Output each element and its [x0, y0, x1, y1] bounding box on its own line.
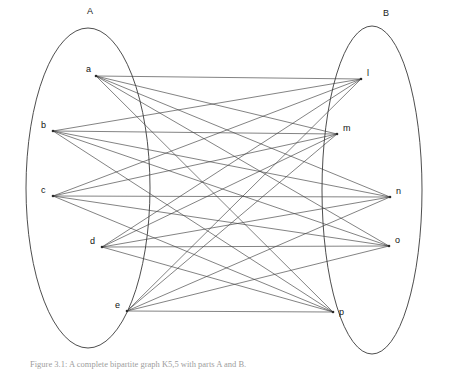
vertex-d	[101, 246, 104, 249]
edge-d-p	[102, 247, 333, 312]
node-label-p: p	[339, 307, 344, 317]
vertex-c	[52, 195, 55, 198]
vertex-m	[336, 133, 339, 136]
set-ellipse-b	[322, 26, 422, 354]
figure-caption: Figure 3.1: A complete bipartite graph K…	[0, 360, 460, 371]
vertex-l	[360, 78, 363, 81]
bipartite-graph-figure: abcdelmnop AB Figure 3.1: A complete bip…	[0, 0, 460, 371]
node-label-d: d	[90, 236, 95, 246]
vertex-n	[389, 196, 392, 199]
node-label-m: m	[343, 123, 351, 133]
set-label-layer: AB	[87, 6, 389, 18]
node-label-layer: abcdelmnop	[41, 64, 401, 317]
edge-a-p	[96, 76, 333, 312]
edge-a-l	[96, 76, 361, 79]
edge-e-o	[127, 246, 389, 311]
edge-b-l	[53, 79, 361, 131]
set-ellipse-layer	[26, 26, 422, 354]
node-label-e: e	[115, 300, 120, 310]
edge-e-n	[127, 197, 390, 311]
node-label-c: c	[41, 185, 46, 195]
graph-canvas: abcdelmnop AB	[0, 0, 460, 371]
edge-layer	[53, 76, 390, 312]
edge-c-o	[53, 196, 389, 246]
set-label-b: B	[383, 8, 389, 18]
figure-caption-text: Figure 3.1: A complete bipartite graph K…	[30, 360, 450, 370]
vertex-o	[388, 245, 391, 248]
node-label-a: a	[86, 64, 91, 74]
edge-e-l	[127, 79, 361, 311]
edge-c-l	[53, 79, 361, 196]
edge-d-o	[102, 246, 389, 247]
node-label-l: l	[367, 68, 369, 78]
vertex-b	[52, 130, 55, 133]
node-label-b: b	[41, 120, 46, 130]
edge-d-m	[102, 134, 337, 247]
vertex-layer	[52, 75, 392, 314]
node-label-n: n	[396, 186, 401, 196]
edge-e-p	[127, 311, 333, 312]
vertex-e	[126, 310, 129, 313]
vertex-a	[95, 75, 98, 78]
edge-c-n	[53, 196, 390, 197]
set-label-a: A	[87, 6, 93, 16]
vertex-p	[332, 311, 335, 314]
node-label-o: o	[395, 235, 400, 245]
